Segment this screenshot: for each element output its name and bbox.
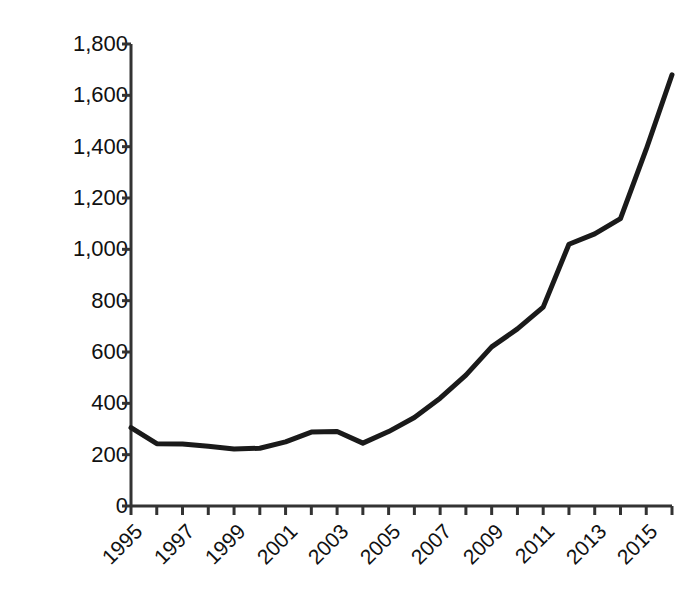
- axes: [131, 44, 672, 506]
- plot-area: [0, 0, 695, 590]
- data-series-line: [131, 75, 672, 449]
- line-chart: Number of awards 02004006008001,0001,200…: [0, 0, 695, 590]
